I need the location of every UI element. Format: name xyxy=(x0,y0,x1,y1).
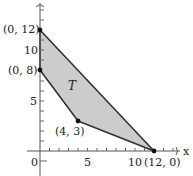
region-label: T xyxy=(68,79,77,93)
x-tick-5: 5 xyxy=(84,156,91,169)
feasible-region-chart: 0 5 10 x 5 10 (0, 12 xyxy=(0,0,193,176)
label-12-0: (12, 0) xyxy=(144,156,181,169)
y-tick-5: 5 xyxy=(30,95,37,108)
y-tick-10: 10 xyxy=(24,44,38,57)
x-tick-0: 0 xyxy=(31,156,38,169)
x-axis-label: x xyxy=(183,145,190,158)
point-4-3 xyxy=(76,119,81,124)
point-12-0 xyxy=(152,149,157,154)
point-0-8 xyxy=(38,68,43,73)
x-tick-10: 10 xyxy=(128,156,142,169)
label-0-12: (0, 12) xyxy=(3,23,40,36)
label-4-3: (4, 3) xyxy=(55,125,85,138)
label-0-8: (0, 8) xyxy=(8,64,38,77)
